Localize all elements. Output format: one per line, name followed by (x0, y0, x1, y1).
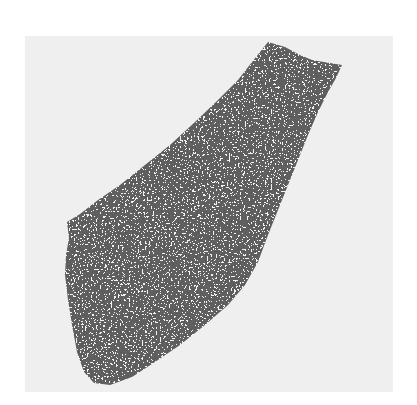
stone-artifact-image (0, 0, 417, 405)
artifact-texture (0, 0, 417, 405)
